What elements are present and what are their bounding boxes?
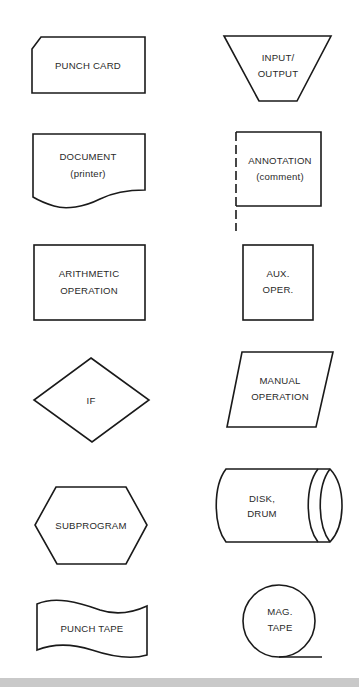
annotation-bracket: [236, 132, 321, 206]
arithmetic-operation-label-line1: ARITHMETIC: [59, 268, 120, 279]
input-output-label-line2: OUTPUT: [258, 68, 299, 79]
disk-drum-symbol: DISK, DRUM: [216, 469, 342, 542]
annotation-label-line2: (comment): [256, 171, 304, 182]
manual-operation-label-line1: MANUAL: [259, 375, 301, 386]
auxiliary-operation-shape: [243, 245, 313, 320]
subprogram-symbol: SUBPROGRAM: [35, 487, 147, 564]
annotation-symbol: ANNOTATION (comment): [236, 132, 321, 231]
magnetic-tape-symbol: MAG. TAPE: [243, 585, 322, 657]
document-symbol: DOCUMENT (printer): [33, 134, 145, 208]
magnetic-tape-label-line1: MAG.: [267, 606, 292, 617]
disk-drum-label-line2: DRUM: [247, 508, 277, 519]
subprogram-label: SUBPROGRAM: [55, 520, 126, 531]
arithmetic-operation-label-line2: OPERATION: [60, 285, 118, 296]
punch-tape-symbol: PUNCH TAPE: [37, 600, 147, 657]
annotation-label-line1: ANNOTATION: [248, 155, 311, 166]
manual-operation-shape: [227, 352, 333, 427]
magnetic-tape-label-line2: TAPE: [267, 622, 292, 633]
document-label-line2: (printer): [70, 168, 105, 179]
decision-symbol: IF: [34, 358, 149, 442]
bottom-page-edge: [0, 678, 359, 687]
auxiliary-operation-symbol: AUX. OPER.: [243, 245, 313, 320]
flowchart-symbols-diagram: PUNCH CARD INPUT/ OUTPUT DOCUMENT (print…: [0, 0, 359, 687]
auxiliary-operation-label-line1: AUX.: [266, 268, 289, 279]
disk-drum-body-shape: [216, 469, 342, 542]
punch-tape-label: PUNCH TAPE: [61, 623, 124, 634]
punch-card-symbol: PUNCH CARD: [32, 37, 145, 93]
magnetic-tape-circle-shape: [243, 585, 315, 657]
auxiliary-operation-label-line2: OPER.: [263, 284, 294, 295]
manual-operation-label-line2: OPERATION: [251, 391, 309, 402]
disk-drum-label-line1: DISK,: [249, 493, 275, 504]
document-label-line1: DOCUMENT: [59, 151, 116, 162]
arithmetic-operation-symbol: ARITHMETIC OPERATION: [34, 245, 145, 320]
punch-card-label: PUNCH CARD: [55, 60, 121, 71]
input-output-label-line1: INPUT/: [262, 52, 295, 63]
decision-label: IF: [87, 395, 96, 406]
arithmetic-operation-shape: [34, 245, 145, 320]
manual-operation-symbol: MANUAL OPERATION: [227, 352, 333, 427]
input-output-symbol: INPUT/ OUTPUT: [224, 36, 331, 101]
